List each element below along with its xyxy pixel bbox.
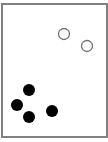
hollow-dot-1 [82,41,93,52]
filled-dot-0 [23,84,35,96]
filled-dot-1 [11,99,23,111]
filled-dot-2 [23,111,35,123]
filled-dot-3 [46,105,58,117]
hollow-dot-0 [59,29,70,40]
dot-diagram [0,0,108,142]
